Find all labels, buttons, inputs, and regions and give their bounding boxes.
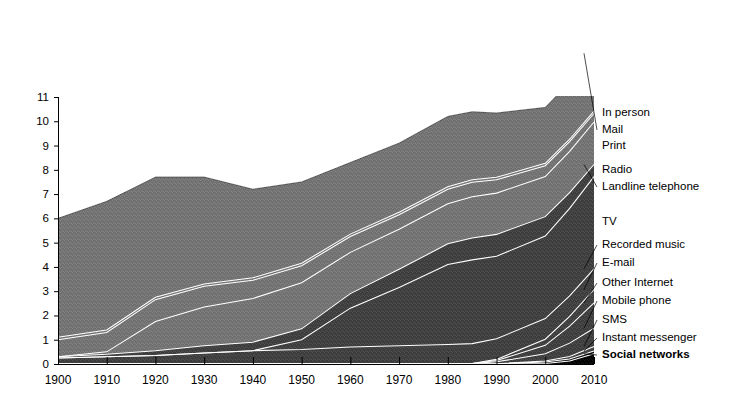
x-tick-label: 2010 — [581, 373, 608, 387]
y-tick-label: 3 — [43, 285, 49, 297]
x-tick-label: 2000 — [532, 373, 559, 387]
y-tick-label: 5 — [43, 237, 49, 249]
y-tick-label: 2 — [43, 309, 49, 321]
y-tick-label: 8 — [43, 164, 49, 176]
x-tick-label: 1960 — [337, 373, 364, 387]
x-tick-label: 1980 — [434, 373, 461, 387]
x-tick-label: 1940 — [240, 373, 267, 387]
x-tick-label: 1990 — [483, 373, 510, 387]
y-tick-label: 9 — [43, 140, 49, 152]
x-tick-label: 1950 — [288, 373, 315, 387]
x-tick-label: 1910 — [93, 373, 120, 387]
y-tick-label: 11 — [37, 91, 49, 103]
y-tick-label: 6 — [43, 212, 49, 224]
x-tick-label: 1900 — [45, 373, 72, 387]
y-tick-label: 10 — [36, 115, 49, 127]
y-tick-label: 7 — [43, 188, 49, 200]
chart-page: Time spent consuming messages by technol… — [0, 0, 742, 403]
x-tick-label: 1920 — [142, 373, 169, 387]
y-tick-label: 0 — [43, 358, 49, 370]
y-tick-label: 4 — [43, 261, 50, 273]
y-tick-label: 1 — [43, 334, 49, 346]
x-tick-label: 1970 — [386, 373, 413, 387]
stacked-area-chart: 0123456789101119001910192019301940195019… — [0, 0, 742, 403]
x-tick-label: 1930 — [191, 373, 218, 387]
